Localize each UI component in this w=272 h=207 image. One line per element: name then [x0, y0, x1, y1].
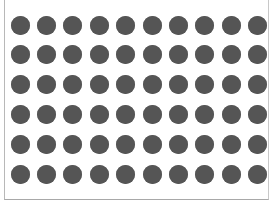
dot-r3-c5 — [116, 75, 135, 94]
dot-r4-c10 — [248, 105, 267, 124]
dot-r6-c4 — [90, 165, 109, 184]
dot-grid — [0, 0, 272, 207]
dot-r3-c9 — [222, 75, 241, 94]
dot-r6-c9 — [222, 165, 241, 184]
dot-r4-c4 — [90, 105, 109, 124]
dot-r4-c9 — [222, 105, 241, 124]
dot-r6-c5 — [116, 165, 135, 184]
dot-r5-c4 — [90, 135, 109, 154]
dot-r6-c1 — [11, 165, 30, 184]
dot-r6-c6 — [143, 165, 162, 184]
dot-r2-c10 — [248, 45, 267, 64]
dot-r5-c6 — [143, 135, 162, 154]
dot-r3-c10 — [248, 75, 267, 94]
dot-r2-c2 — [37, 45, 56, 64]
dot-r4-c5 — [116, 105, 135, 124]
dot-r2-c4 — [90, 45, 109, 64]
dot-r1-c9 — [222, 16, 241, 35]
dot-r3-c7 — [169, 75, 188, 94]
dot-r1-c5 — [116, 16, 135, 35]
dot-r4-c3 — [63, 105, 82, 124]
dot-r2-c8 — [195, 45, 214, 64]
dot-r4-c7 — [169, 105, 188, 124]
dot-r4-c6 — [143, 105, 162, 124]
dot-r3-c6 — [143, 75, 162, 94]
dot-r3-c1 — [11, 75, 30, 94]
dot-r2-c5 — [116, 45, 135, 64]
dot-r6-c2 — [37, 165, 56, 184]
dot-r1-c4 — [90, 16, 109, 35]
dot-r2-c9 — [222, 45, 241, 64]
dot-r5-c3 — [63, 135, 82, 154]
dot-r5-c8 — [195, 135, 214, 154]
dot-r5-c5 — [116, 135, 135, 154]
dot-r2-c6 — [143, 45, 162, 64]
dot-r5-c10 — [248, 135, 267, 154]
dot-r2-c1 — [11, 45, 30, 64]
dot-r6-c10 — [248, 165, 267, 184]
dot-r6-c7 — [169, 165, 188, 184]
dot-r3-c2 — [37, 75, 56, 94]
dot-r1-c2 — [37, 16, 56, 35]
dot-r5-c2 — [37, 135, 56, 154]
dot-r3-c8 — [195, 75, 214, 94]
dot-r1-c1 — [11, 16, 30, 35]
dot-r4-c8 — [195, 105, 214, 124]
dot-r5-c7 — [169, 135, 188, 154]
dot-r4-c2 — [37, 105, 56, 124]
dot-r6-c8 — [195, 165, 214, 184]
dot-r2-c3 — [63, 45, 82, 64]
dot-r5-c1 — [11, 135, 30, 154]
dot-r1-c6 — [143, 16, 162, 35]
dot-r1-c7 — [169, 16, 188, 35]
dot-r3-c3 — [63, 75, 82, 94]
dot-r1-c10 — [248, 16, 267, 35]
dot-r6-c3 — [63, 165, 82, 184]
dot-r5-c9 — [222, 135, 241, 154]
dot-r4-c1 — [11, 105, 30, 124]
dot-r1-c8 — [195, 16, 214, 35]
dot-r2-c7 — [169, 45, 188, 64]
dot-r3-c4 — [90, 75, 109, 94]
dot-r1-c3 — [63, 16, 82, 35]
